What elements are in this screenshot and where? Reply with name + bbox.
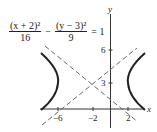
- x-axis-label: x: [147, 105, 151, 114]
- x-tick-label-neg6: −6: [53, 114, 63, 123]
- y-tick-label-6: 6: [101, 46, 106, 55]
- term1-denominator: 16: [19, 32, 31, 43]
- equation-term1: (x + 2)² 16: [9, 20, 41, 43]
- y-tick-label-3: 3: [101, 79, 106, 88]
- equation-term2: (y − 3)² 9: [55, 20, 87, 43]
- equation-rhs: = 1: [91, 26, 104, 37]
- asymptote-negative-slope: [45, 46, 138, 122]
- x-tick-label-neg2: −2: [88, 114, 98, 123]
- term1-numerator: (x + 2)²: [9, 20, 41, 32]
- minus-sign: −: [45, 26, 51, 37]
- hyperbola-right-branch: [128, 53, 145, 110]
- x-tick-label-2: 2: [126, 114, 131, 123]
- hyperbola-equation: (x + 2)² 16 − (y − 3)² 9 = 1: [8, 20, 107, 43]
- y-axis-label: y: [108, 5, 112, 14]
- term2-numerator: (y − 3)²: [55, 20, 87, 32]
- hyperbola-left-branch: [41, 53, 58, 110]
- term2-denominator: 9: [68, 32, 75, 43]
